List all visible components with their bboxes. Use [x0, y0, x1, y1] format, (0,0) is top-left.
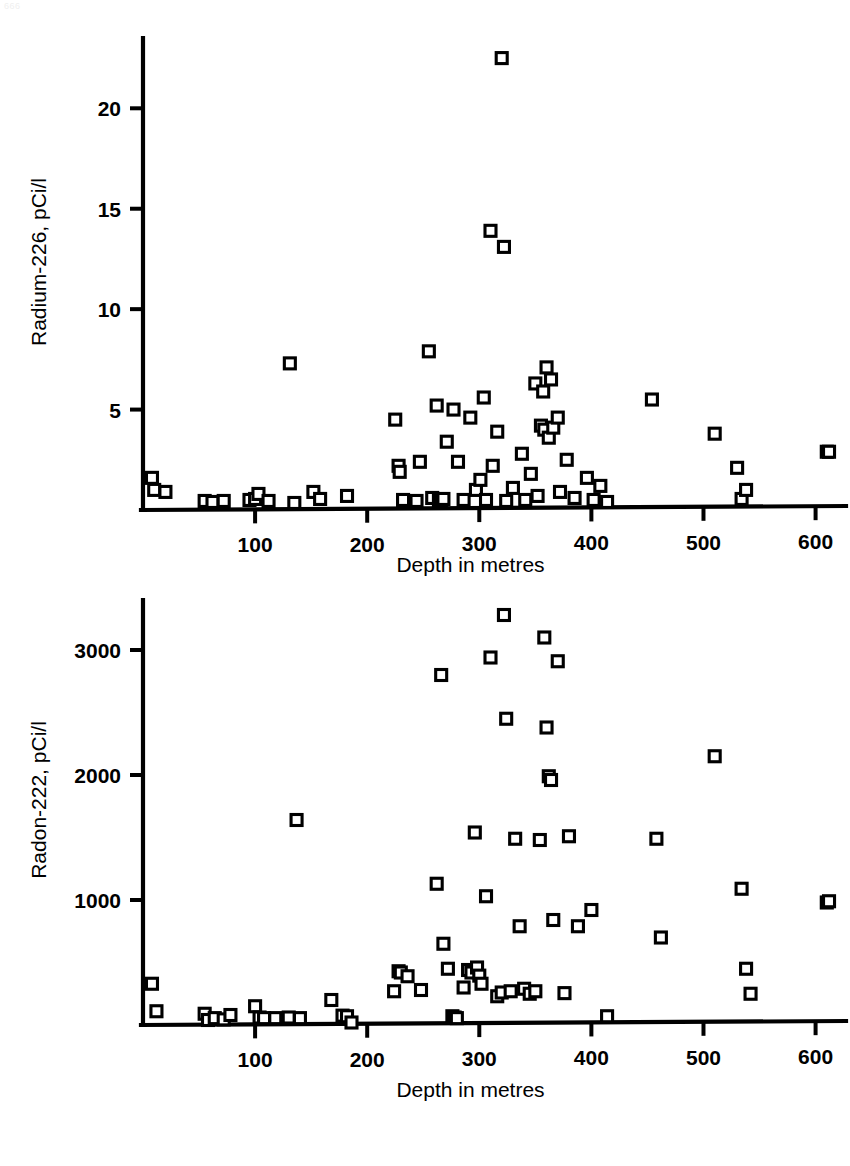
data-point-marker	[146, 472, 157, 483]
y-axis-title: Radon-222, pCi/l	[27, 721, 50, 879]
data-point-marker	[546, 775, 557, 786]
data-point-marker	[655, 932, 666, 943]
x-tick-label: 500	[686, 1046, 721, 1069]
data-point-marker	[149, 484, 160, 495]
data-point-marker	[732, 462, 743, 473]
y-tick-label: 1000	[74, 889, 121, 912]
data-point-marker	[438, 938, 449, 949]
x-tick-label: 100	[238, 1048, 273, 1071]
data-point-marker	[541, 362, 552, 373]
data-point-marker	[270, 1013, 281, 1024]
data-point-marker	[394, 466, 405, 477]
x-tick-label: 200	[350, 1048, 385, 1071]
data-point-marker	[586, 905, 597, 916]
data-point-marker	[541, 722, 552, 733]
data-point-marker	[342, 490, 353, 501]
data-point-marker	[532, 490, 543, 501]
data-point-marker	[414, 456, 425, 467]
data-point-marker	[431, 400, 442, 411]
data-point-marker	[498, 241, 509, 252]
data-point-marker	[291, 815, 302, 826]
data-point-marker	[431, 878, 442, 889]
data-point-marker	[402, 971, 413, 982]
data-point-marker	[548, 915, 559, 926]
y-tick-label: 2000	[74, 764, 121, 787]
data-point-marker	[510, 833, 521, 844]
data-point-marker	[390, 414, 401, 425]
chart-panel-radium-226: 5101520100200300400500600Depth in metres…	[0, 0, 850, 590]
data-point-marker	[448, 404, 459, 415]
data-point-marker	[552, 412, 563, 423]
data-point-marker	[146, 978, 157, 989]
data-point-marker	[423, 346, 434, 357]
x-tick-label: 500	[686, 531, 721, 554]
data-point-marker	[546, 374, 557, 385]
data-point-marker	[581, 472, 592, 483]
data-point-marker	[530, 986, 541, 997]
data-point-marker	[741, 484, 752, 495]
data-point-marker	[284, 358, 295, 369]
data-point-marker	[283, 1012, 294, 1023]
data-point-marker	[501, 495, 512, 506]
x-tick-label: 300	[462, 532, 497, 555]
data-point-marker	[389, 986, 400, 997]
data-point-marker	[741, 963, 752, 974]
data-point-marker	[151, 1006, 162, 1017]
data-point-marker	[326, 995, 337, 1006]
y-axis-ticks: 5101520	[98, 97, 144, 421]
data-point-marker	[346, 1017, 357, 1028]
data-point-marker	[478, 392, 489, 403]
y-tick-label: 15	[98, 198, 122, 221]
data-point-marker	[588, 494, 599, 505]
data-points-group	[146, 610, 834, 1029]
axes-group	[141, 38, 846, 510]
x-tick-label: 100	[238, 533, 273, 556]
data-point-marker	[441, 436, 452, 447]
data-point-marker	[559, 988, 570, 999]
data-point-marker	[539, 632, 550, 643]
data-point-marker	[469, 827, 480, 838]
data-point-marker	[160, 486, 171, 497]
x-axis-line	[141, 1021, 846, 1025]
figure-page: 666 5101520100200300400500600Depth in me…	[0, 0, 850, 1166]
x-tick-label: 600	[798, 1045, 833, 1068]
y-tick-label: 5	[109, 399, 121, 422]
x-axis-title: Depth in metres	[396, 553, 544, 576]
data-point-marker	[250, 1001, 261, 1012]
x-tick-label: 200	[350, 533, 385, 556]
data-points-group	[146, 53, 834, 509]
data-point-marker	[736, 883, 747, 894]
data-point-marker	[709, 428, 720, 439]
data-point-marker	[520, 494, 531, 505]
data-point-marker	[745, 988, 756, 999]
data-point-marker	[259, 1013, 270, 1024]
radon-222-scatter-plot: 100020003000100200300400500600Depth in m…	[0, 575, 850, 1166]
data-point-marker	[516, 448, 527, 459]
data-point-marker	[207, 496, 218, 507]
data-point-marker	[438, 493, 449, 504]
data-point-marker	[569, 492, 580, 503]
data-point-marker	[572, 921, 583, 932]
y-tick-label: 10	[98, 298, 121, 321]
data-point-marker	[442, 963, 453, 974]
data-point-marker	[709, 751, 720, 762]
data-point-marker	[481, 494, 492, 505]
data-point-marker	[492, 426, 503, 437]
y-axis-ticks: 100020003000	[74, 639, 144, 912]
y-tick-label: 3000	[74, 639, 121, 662]
data-point-marker	[496, 53, 507, 64]
data-point-marker	[646, 394, 657, 405]
data-point-marker	[534, 835, 545, 846]
x-axis-ticks: 100200300400500600	[238, 506, 834, 556]
data-point-marker	[525, 468, 536, 479]
data-point-marker	[416, 985, 427, 996]
data-point-marker	[561, 454, 572, 465]
data-point-marker	[505, 986, 516, 997]
data-point-marker	[501, 713, 512, 724]
data-point-marker	[824, 896, 835, 907]
data-point-marker	[507, 482, 518, 493]
data-point-marker	[458, 494, 469, 505]
data-point-marker	[555, 486, 566, 497]
data-point-marker	[218, 495, 229, 506]
data-point-marker	[458, 982, 469, 993]
